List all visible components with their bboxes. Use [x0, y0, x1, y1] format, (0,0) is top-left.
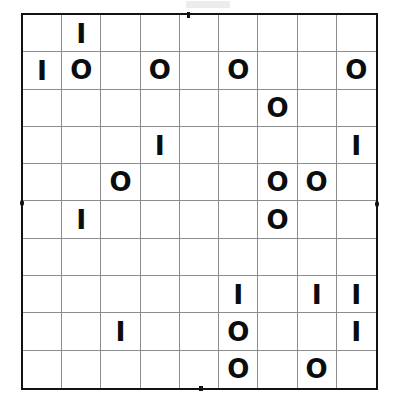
puzzle-cell-r4-c4[interactable]: I [141, 127, 180, 164]
puzzle-cell-r4-c7[interactable] [258, 127, 297, 164]
puzzle-cell-r1-c2[interactable]: I [62, 15, 101, 52]
puzzle-cell-r8-c7[interactable] [258, 276, 297, 313]
puzzle-cell-r4-c3[interactable] [101, 127, 140, 164]
puzzle-cell-r8-c2[interactable] [62, 276, 101, 313]
puzzle-cell-r6-c2[interactable]: I [62, 201, 101, 238]
puzzle-cell-r7-c9[interactable] [337, 239, 376, 276]
puzzle-cell-r1-c4[interactable] [141, 15, 180, 52]
puzzle-cell-r2-c1[interactable]: I [23, 52, 62, 89]
glyph-zero: O [306, 169, 328, 195]
glyph-one: I [351, 132, 361, 159]
puzzle-cell-r8-c4[interactable] [141, 276, 180, 313]
puzzle-cell-r4-c2[interactable] [62, 127, 101, 164]
puzzle-cell-r8-c5[interactable] [180, 276, 219, 313]
glyph-zero: O [266, 207, 288, 233]
puzzle-cell-r9-c8[interactable] [298, 313, 337, 350]
puzzle-cell-r4-c5[interactable] [180, 127, 219, 164]
puzzle-cell-r2-c8[interactable] [298, 52, 337, 89]
puzzle-cell-r6-c3[interactable] [101, 201, 140, 238]
puzzle-cell-r8-c9[interactable]: I [337, 276, 376, 313]
puzzle-cell-r7-c2[interactable] [62, 239, 101, 276]
puzzle-cell-r10-c3[interactable] [101, 351, 140, 388]
puzzle-cell-r8-c3[interactable] [101, 276, 140, 313]
puzzle-cell-r7-c6[interactable] [219, 239, 258, 276]
puzzle-cell-r2-c6[interactable]: O [219, 52, 258, 89]
puzzle-cell-r9-c1[interactable] [23, 313, 62, 350]
puzzle-cell-r9-c7[interactable] [258, 313, 297, 350]
puzzle-cell-r9-c9[interactable]: I [337, 313, 376, 350]
puzzle-cell-r2-c5[interactable] [180, 52, 219, 89]
puzzle-cell-r9-c3[interactable]: I [101, 313, 140, 350]
puzzle-cell-r10-c5[interactable] [180, 351, 219, 388]
puzzle-cell-r3-c7[interactable]: O [258, 90, 297, 127]
glyph-one: I [233, 281, 243, 308]
puzzle-cell-r10-c4[interactable] [141, 351, 180, 388]
puzzle-cell-r3-c4[interactable] [141, 90, 180, 127]
puzzle-cell-r1-c6[interactable] [219, 15, 258, 52]
puzzle-cell-r1-c7[interactable] [258, 15, 297, 52]
puzzle-cell-r5-c7[interactable]: O [258, 164, 297, 201]
puzzle-cell-r10-c7[interactable] [258, 351, 297, 388]
puzzle-cell-r2-c4[interactable]: O [141, 52, 180, 89]
puzzle-cell-r4-c6[interactable] [219, 127, 258, 164]
puzzle-cell-r7-c8[interactable] [298, 239, 337, 276]
puzzle-cell-r5-c8[interactable]: O [298, 164, 337, 201]
puzzle-cell-r7-c4[interactable] [141, 239, 180, 276]
puzzle-cell-r5-c4[interactable] [141, 164, 180, 201]
puzzle-cell-r3-c2[interactable] [62, 90, 101, 127]
puzzle-cell-r4-c8[interactable] [298, 127, 337, 164]
glyph-zero: O [227, 356, 249, 382]
glyph-zero: O [109, 169, 131, 195]
puzzle-cell-r9-c2[interactable] [62, 313, 101, 350]
puzzle-cell-r6-c6[interactable] [219, 201, 258, 238]
puzzle-cell-r6-c8[interactable] [298, 201, 337, 238]
puzzle-cell-r3-c5[interactable] [180, 90, 219, 127]
puzzle-cell-r7-c1[interactable] [23, 239, 62, 276]
puzzle-cell-r4-c1[interactable] [23, 127, 62, 164]
puzzle-cell-r1-c3[interactable] [101, 15, 140, 52]
puzzle-cell-r3-c6[interactable] [219, 90, 258, 127]
puzzle-cell-r1-c9[interactable] [337, 15, 376, 52]
puzzle-cell-r6-c5[interactable] [180, 201, 219, 238]
puzzle-cell-r3-c8[interactable] [298, 90, 337, 127]
puzzle-cell-r8-c1[interactable] [23, 276, 62, 313]
puzzle-cell-r8-c8[interactable]: I [298, 276, 337, 313]
puzzle-cell-r2-c7[interactable] [258, 52, 297, 89]
puzzle-cell-r7-c7[interactable] [258, 239, 297, 276]
puzzle-cell-r5-c6[interactable] [219, 164, 258, 201]
puzzle-cell-r6-c9[interactable] [337, 201, 376, 238]
puzzle-cell-r7-c5[interactable] [180, 239, 219, 276]
puzzle-cell-r1-c8[interactable] [298, 15, 337, 52]
puzzle-cell-r1-c1[interactable] [23, 15, 62, 52]
puzzle-cell-r9-c5[interactable] [180, 313, 219, 350]
puzzle-cell-r9-c4[interactable] [141, 313, 180, 350]
puzzle-cell-r10-c6[interactable]: O [219, 351, 258, 388]
puzzle-cell-r7-c3[interactable] [101, 239, 140, 276]
glyph-one: I [312, 281, 322, 308]
puzzle-cell-r5-c3[interactable]: O [101, 164, 140, 201]
puzzle-cell-r5-c2[interactable] [62, 164, 101, 201]
puzzle-cell-r3-c3[interactable] [101, 90, 140, 127]
puzzle-cell-r6-c1[interactable] [23, 201, 62, 238]
puzzle-cell-r5-c5[interactable] [180, 164, 219, 201]
glyph-one: I [76, 206, 86, 233]
puzzle-cell-r10-c1[interactable] [23, 351, 62, 388]
puzzle-cell-r2-c3[interactable] [101, 52, 140, 89]
puzzle-cell-r10-c2[interactable] [62, 351, 101, 388]
puzzle-cell-r4-c9[interactable]: I [337, 127, 376, 164]
puzzle-cell-r1-c5[interactable] [180, 15, 219, 52]
puzzle-cell-r6-c7[interactable]: O [258, 201, 297, 238]
puzzle-cell-r5-c1[interactable] [23, 164, 62, 201]
glyph-zero: O [345, 57, 367, 83]
puzzle-cell-r10-c8[interactable]: O [298, 351, 337, 388]
puzzle-cell-r10-c9[interactable] [337, 351, 376, 388]
puzzle-cell-r3-c1[interactable] [23, 90, 62, 127]
puzzle-cell-r3-c9[interactable] [337, 90, 376, 127]
puzzle-cell-r2-c9[interactable]: O [337, 52, 376, 89]
glyph-zero: O [149, 57, 171, 83]
puzzle-cell-r9-c6[interactable]: O [219, 313, 258, 350]
puzzle-cell-r8-c6[interactable]: I [219, 276, 258, 313]
puzzle-cell-r6-c4[interactable] [141, 201, 180, 238]
puzzle-cell-r5-c9[interactable] [337, 164, 376, 201]
puzzle-cell-r2-c2[interactable]: O [62, 52, 101, 89]
